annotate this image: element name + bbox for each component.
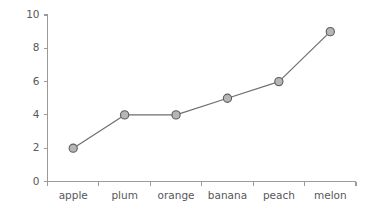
y-axis-ticks [44,15,48,182]
y-axis-tick-label: 0 [33,175,40,187]
data-point [121,111,129,119]
series-line [73,32,330,149]
chart-canvas: 0246810 appleplumorangebananapeachmelon [0,0,370,216]
y-axis-tick-label: 8 [33,41,40,53]
y-axis-tick-label: 2 [33,141,40,153]
y-axis-tick-label: 4 [33,108,40,120]
line-chart: 0246810 appleplumorangebananapeachmelon [0,0,370,216]
data-point [172,111,180,119]
x-axis-tick-label: banana [208,189,247,201]
y-axis-tick-label: 6 [33,75,40,87]
x-axis-tick-label: plum [111,189,137,201]
x-axis-tick-label: melon [314,189,347,201]
data-point [275,78,283,86]
data-point [326,28,334,36]
x-axis-tick-label: orange [158,189,195,201]
x-axis-tick-label: peach [263,189,295,201]
data-point [69,144,77,152]
x-axis-tick-labels: appleplumorangebananapeachmelon [59,189,347,201]
data-point [223,94,231,102]
y-axis-tick-labels: 0246810 [26,8,40,187]
data-point-markers [69,28,334,153]
x-axis-ticks [48,182,357,187]
x-axis-tick-label: apple [59,189,88,201]
y-axis-tick-label: 10 [26,8,39,20]
